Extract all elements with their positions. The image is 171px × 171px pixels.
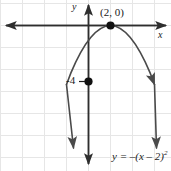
vertex-point-label: (2, 0) xyxy=(100,7,124,18)
y-axis-label: y xyxy=(72,2,76,12)
equation-base: y = –(x – 2) xyxy=(112,150,164,162)
y-intercept-label: -4 xyxy=(66,75,75,86)
graph-canvas xyxy=(0,0,171,171)
x-axis-label: x xyxy=(158,30,162,40)
parabola-graph-figure: y x (2, 0) -4 y = –(x – 2)2 xyxy=(0,0,171,171)
equation-exponent: 2 xyxy=(164,149,168,157)
vertex-point xyxy=(106,21,114,29)
equation-label: y = –(x – 2)2 xyxy=(112,151,168,162)
y-intercept-point xyxy=(84,77,92,85)
parabola-branch-extensions xyxy=(67,85,157,149)
